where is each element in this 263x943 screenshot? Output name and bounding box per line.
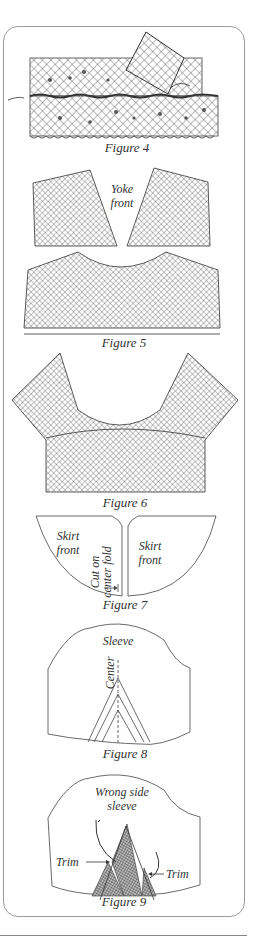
figure-5-caption: Figure 5	[102, 335, 147, 351]
figure-4-illustration	[8, 32, 218, 138]
wrong-side-sleeve-label: Wrong side sleeve	[92, 785, 152, 813]
trim-left-label: Trim	[56, 855, 79, 869]
yoke-front-label: Yoke front	[104, 182, 140, 210]
figure-6-illustration	[12, 353, 238, 492]
sleeve-label: Sleeve	[98, 634, 138, 648]
figure-8-caption: Figure 8	[103, 746, 148, 762]
skirt-left-line2: front	[50, 543, 86, 557]
bottom-rule	[0, 935, 247, 936]
trim-right-label: Trim	[166, 867, 189, 881]
figure-4-caption: Figure 4	[105, 140, 150, 156]
yoke-label-line1: Yoke	[104, 182, 140, 196]
wrong-side-line1: Wrong side	[92, 785, 152, 799]
skirt-front-right-label: Skirt front	[132, 539, 168, 567]
figure-9-caption: Figure 9	[102, 894, 147, 910]
skirt-right-line2: front	[132, 553, 168, 567]
skirt-front-left-label: Skirt front	[50, 529, 86, 557]
skirt-left-line1: Skirt	[50, 529, 86, 543]
figure-6-caption: Figure 6	[103, 495, 148, 511]
yoke-label-line2: front	[104, 196, 140, 210]
figure-7-caption: Figure 7	[103, 597, 148, 613]
wrong-side-line2: sleeve	[92, 799, 152, 813]
skirt-right-line1: Skirt	[132, 539, 168, 553]
center-label: Center	[103, 653, 117, 693]
